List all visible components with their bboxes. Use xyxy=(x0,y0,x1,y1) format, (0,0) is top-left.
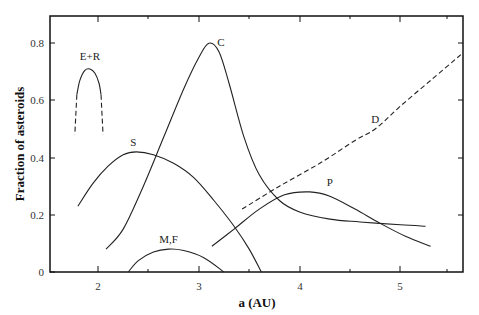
curve-m-f xyxy=(128,249,224,272)
curve-p xyxy=(212,192,431,246)
y-tick-label-0.8: 0.8 xyxy=(30,37,44,49)
curve-label-m-f: M,F xyxy=(159,233,178,245)
curve-e-r xyxy=(77,69,101,95)
x-tick-label-4: 4 xyxy=(297,280,303,292)
curve-c xyxy=(106,43,426,249)
curve-e-r-dashed-extension-right xyxy=(101,95,103,135)
curve-label-d: D xyxy=(371,113,379,125)
y-tick-label-0.6: 0.6 xyxy=(30,94,44,106)
curve-s xyxy=(78,152,261,272)
y-tick-label-0.4: 0.4 xyxy=(30,152,44,164)
curve-label-c: C xyxy=(217,36,224,48)
x-tick-label-2: 2 xyxy=(95,280,101,292)
x-tick-label-5: 5 xyxy=(397,280,403,292)
x-tick-label-3: 3 xyxy=(196,280,202,292)
y-axis-ticks xyxy=(50,43,463,272)
y-axis-title: Fraction of asteroids xyxy=(12,87,27,202)
x-axis-ticks xyxy=(98,16,447,272)
curves xyxy=(75,43,461,272)
curve-d xyxy=(242,55,461,209)
curve-label-e-r: E+R xyxy=(80,50,101,62)
curve-e-r-dashed-extension-left xyxy=(75,95,77,135)
curve-labels: E+RSCM,FPD xyxy=(80,36,379,245)
asteroid-fraction-chart: 0 0.2 0.4 0.6 0.8 2 3 4 5 a (AU) Fractio… xyxy=(0,0,479,315)
curve-label-s: S xyxy=(130,136,136,148)
x-axis-title: a (AU) xyxy=(238,295,275,310)
y-tick-label-0: 0 xyxy=(39,266,45,278)
curve-label-p: P xyxy=(327,176,333,188)
y-tick-label-0.2: 0.2 xyxy=(30,209,44,221)
